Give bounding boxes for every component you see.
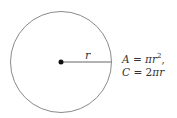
radius-label: r — [85, 49, 91, 62]
circumference-formula: C = 2πr — [122, 66, 165, 79]
center-point — [59, 60, 64, 65]
area-formula: A = πr2, — [122, 50, 165, 66]
formula-block: A = πr2, C = 2πr — [122, 50, 165, 79]
